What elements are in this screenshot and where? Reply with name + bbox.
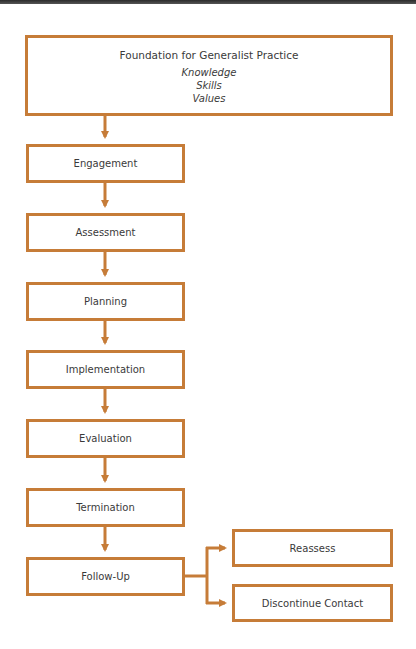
step-label: Assessment: [76, 227, 136, 238]
step-follow-up: Follow-Up: [26, 557, 185, 596]
step-planning: Planning: [26, 282, 185, 321]
step-implementation: Implementation: [26, 350, 185, 389]
step-termination: Termination: [26, 488, 185, 527]
step-assessment: Assessment: [26, 213, 185, 252]
foundation-item-knowledge: Knowledge: [182, 66, 237, 79]
branch-label: Reassess: [290, 543, 336, 554]
branch-label: Discontinue Contact: [262, 598, 363, 609]
step-label: Planning: [84, 296, 127, 307]
branch-discontinue-contact: Discontinue Contact: [232, 584, 393, 622]
step-evaluation: Evaluation: [26, 419, 185, 458]
foundation-item-values: Values: [182, 92, 237, 105]
foundation-box: Foundation for Generalist Practice Knowl…: [25, 35, 393, 116]
step-label: Engagement: [74, 158, 138, 169]
branch-reassess: Reassess: [232, 529, 393, 567]
step-engagement: Engagement: [26, 144, 185, 183]
foundation-items: Knowledge Skills Values: [182, 66, 237, 105]
step-label: Evaluation: [79, 433, 132, 444]
step-label: Termination: [76, 502, 135, 513]
foundation-item-skills: Skills: [182, 79, 237, 92]
step-label: Implementation: [66, 364, 145, 375]
foundation-title: Foundation for Generalist Practice: [120, 49, 299, 61]
step-label: Follow-Up: [81, 571, 130, 582]
